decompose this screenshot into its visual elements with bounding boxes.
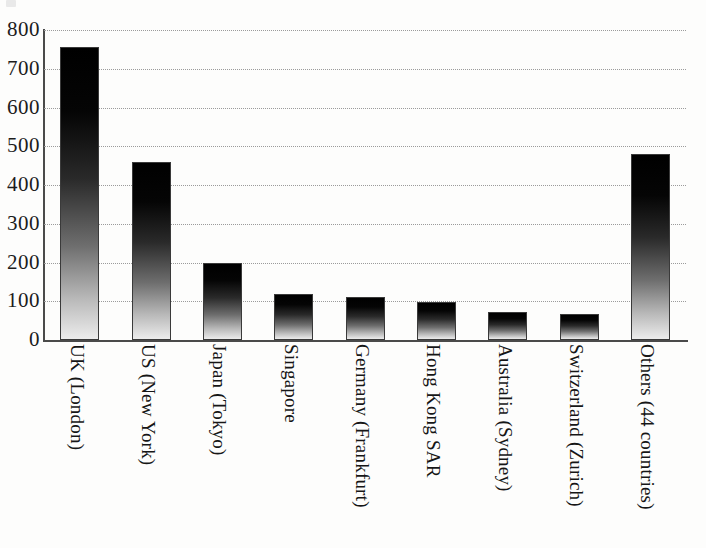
gridline-800 (44, 30, 686, 31)
x-tick-label: Singapore (282, 344, 301, 423)
x-tick-label: Hong Kong SAR (424, 344, 443, 478)
gridline-700 (44, 69, 686, 70)
bar (560, 314, 599, 340)
bar-chart: 8007006005004003002001000 UK (London)US … (0, 0, 706, 548)
bar (417, 302, 456, 340)
y-tick-label: 600 (0, 97, 40, 118)
bar (488, 312, 527, 340)
x-tick-label: US (New York) (139, 344, 158, 465)
y-axis-tick-labels: 8007006005004003002001000 (0, 0, 40, 548)
y-tick-label: 200 (0, 252, 40, 273)
bar (132, 162, 171, 340)
x-axis-category-labels: UK (London)US (New York)Japan (Tokyo)Sin… (44, 344, 686, 548)
x-tick-label: Others (44 countries) (638, 344, 657, 510)
bar (274, 294, 313, 340)
y-tick-label: 700 (0, 58, 40, 79)
gridline-500 (44, 146, 686, 147)
bar (631, 154, 670, 340)
x-tick-label: UK (London) (68, 344, 87, 450)
y-tick-label: 100 (0, 290, 40, 311)
x-tick-label: Germany (Frankfurt) (353, 344, 372, 508)
bar (60, 47, 99, 340)
y-tick-label: 400 (0, 174, 40, 195)
y-tick-label: 0 (0, 329, 40, 350)
x-tick-label: Switzerland (Zurich) (567, 344, 586, 507)
x-tick-label: Japan (Tokyo) (210, 344, 229, 456)
y-tick-label: 800 (0, 19, 40, 40)
x-tick-label: Australia (Sydney) (496, 344, 515, 492)
y-tick-label: 500 (0, 135, 40, 156)
bar (203, 263, 242, 340)
plot-area (44, 30, 686, 340)
bar (346, 297, 385, 340)
gridline-600 (44, 108, 686, 109)
y-tick-label: 300 (0, 213, 40, 234)
x-axis-line (43, 340, 688, 342)
